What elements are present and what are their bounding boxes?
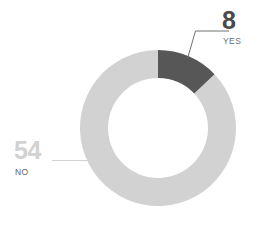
slice-label-no: 54 NO	[14, 138, 41, 177]
slice-value-no: 54	[14, 138, 41, 163]
slice-name-no: NO	[15, 167, 41, 177]
slice-label-yes: 8 YES	[222, 8, 241, 46]
slice-name-yes: YES	[223, 36, 241, 46]
donut-chart: 8 YES 54 NO	[0, 0, 269, 226]
slice-value-yes: 8	[222, 8, 241, 33]
